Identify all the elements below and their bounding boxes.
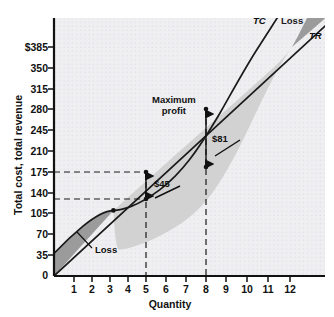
tc-curve-label: TC: [253, 16, 266, 26]
y-axis-title: Total cost, total revenue: [13, 95, 24, 215]
x-tick-label-3: 3: [102, 284, 118, 295]
point-tc-at-5: [144, 197, 149, 202]
x-tick-label-8: 8: [198, 284, 214, 295]
point-breakeven-low: [111, 208, 116, 213]
x-axis-title: Quantity: [149, 299, 192, 310]
annotation-loss-high: Loss: [281, 16, 303, 26]
y-tick-label-175: 175: [4, 167, 48, 178]
x-tick-label-6: 6: [158, 284, 174, 295]
y-tick-label-140: 140: [4, 188, 48, 199]
annotation-loss-low: Loss: [95, 245, 117, 255]
point-tc-at-8: [204, 165, 209, 170]
y-tick-label-105: 105: [4, 208, 48, 219]
point-tr-at-8: [204, 107, 209, 112]
x-tick-label-5: 5: [138, 284, 154, 295]
x-tick-label-2: 2: [84, 284, 100, 295]
point-tr-at-5: [144, 170, 149, 175]
y-tick-label-350: 350: [4, 63, 48, 74]
y-tick-label-70: 70: [4, 229, 48, 240]
chart-figure: $385 350 315 280 245 210 175 140 105 70 …: [0, 0, 334, 317]
x-tick-label-10: 10: [238, 284, 256, 295]
y-tick-label-210: 210: [4, 146, 48, 157]
maximum-profit-word-2: profit: [152, 106, 196, 116]
annotation-profit-45: $45: [154, 179, 170, 189]
x-tick-label-9: 9: [218, 284, 234, 295]
annotation-maximum-profit-line1: Maximumprofit: [152, 95, 196, 115]
x-tick-label-4: 4: [120, 284, 136, 295]
annotation-profit-81: $81: [212, 134, 228, 144]
y-tick-label-280: 280: [4, 104, 48, 115]
y-tick-label-35: 35: [4, 250, 48, 261]
maximum-profit-word-1: Maximum: [152, 95, 196, 105]
y-tick-label-0: 0: [4, 270, 48, 281]
y-tick-label-315: 315: [4, 84, 48, 95]
y-tick-label-245: 245: [4, 125, 48, 136]
x-tick-label-7: 7: [178, 284, 194, 295]
tr-curve-label: TR: [309, 31, 322, 41]
x-tick-label-1: 1: [66, 284, 82, 295]
chart-canvas: [0, 0, 334, 317]
x-tick-label-11: 11: [259, 284, 277, 295]
x-tick-label-12: 12: [281, 284, 299, 295]
y-tick-label-385: $385: [4, 42, 48, 53]
